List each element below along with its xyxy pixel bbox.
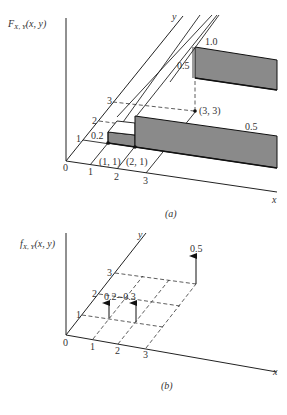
x-tick-3-b: 3 (143, 349, 148, 360)
x-axis-label-a: x (271, 194, 277, 205)
impulse-labels-b: 0.2--0.3 (104, 291, 136, 302)
y-tick-2-b: 2 (92, 288, 97, 299)
x-axis-label-b: x (272, 366, 278, 377)
joint-distribution-figure: FX, Y(x, y) y x 0 1 2 3 1 2 3 (1, 1) (2,… (0, 0, 287, 415)
y-grid-3-b (115, 273, 196, 284)
x-tick-2-a: 2 (114, 171, 119, 182)
point-1-1 (106, 141, 110, 145)
y-axis-label-a: y (171, 11, 177, 22)
y-tick-3-b: 3 (107, 267, 112, 278)
x-grid-2-b (118, 280, 169, 344)
jump-label-0.5: 0.5 (177, 60, 190, 71)
figure-b-pmf: fX, Y(x, y) y x 0 1 2 3 1 2 3 0.2--0.3 0… (20, 229, 278, 392)
point-label-3-3: (3, 3) (199, 105, 221, 117)
caption-a: (a) (165, 208, 177, 220)
y-tick-1-a: 1 (76, 133, 81, 144)
point-label-1-1: (1, 1) (99, 156, 121, 168)
step-label-0.5: 0.5 (245, 121, 258, 132)
y-grid-3-a (113, 102, 194, 111)
y-tick-1-b: 1 (76, 309, 81, 320)
y-grid-1-b (82, 315, 163, 327)
y-tick-2-a: 2 (92, 115, 97, 126)
y-axis-label-b: y (137, 229, 143, 240)
figure-a-cdf: FX, Y(x, y) y x 0 1 2 3 1 2 3 (1, 1) (2,… (7, 11, 277, 220)
origin-label-a: 0 (63, 162, 68, 173)
z-axis-label-a: FX, Y(x, y) (7, 18, 47, 31)
z-axis-label-b: fX, Y(x, y) (20, 238, 56, 251)
caption-b: (b) (161, 380, 173, 392)
impulse-label-0.5: 0.5 (190, 243, 203, 254)
x-tick-1-b: 1 (90, 341, 95, 352)
x-tick-3-a: 3 (143, 175, 148, 186)
origin-label-b: 0 (63, 337, 68, 348)
x-axis-b (66, 335, 277, 372)
point-3-3 (193, 109, 197, 113)
step-label-1.0: 1.0 (205, 36, 218, 47)
y-tick-3-a: 3 (107, 95, 112, 106)
step-label-0.2: 0.2 (91, 130, 104, 141)
x-tick-2-b: 2 (115, 345, 120, 356)
point-label-2-1: (2, 1) (126, 156, 148, 168)
x-axis-a (66, 161, 277, 192)
point-2-1 (133, 145, 137, 149)
x-grid-3-b (146, 284, 196, 348)
x-tick-1-a: 1 (88, 166, 93, 177)
